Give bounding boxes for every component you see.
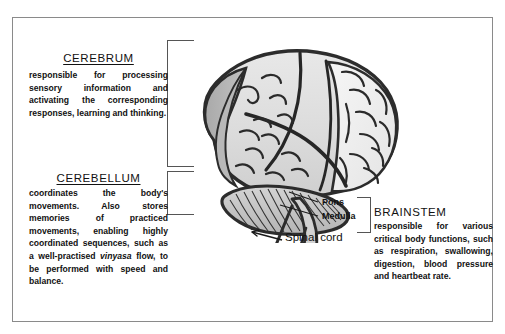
brainstem-section: BRAINSTEM responsible for various critic…	[374, 206, 493, 283]
brainstem-body: responsible for various critical body fu…	[374, 220, 493, 283]
cerebellum-section: CEREBELLUM coordinates the body's moveme…	[29, 172, 168, 288]
cerebrum-section: CEREBRUM responsible for processing sens…	[29, 52, 168, 119]
cerebrum-body: responsible for processing sensory infor…	[29, 69, 168, 119]
brainstem-heading: BRAINSTEM	[374, 206, 493, 218]
pons-label: Pons	[322, 197, 344, 207]
spinal-cord-label: Spinal cord	[285, 231, 343, 243]
medulla-label: Medulla	[322, 211, 356, 221]
cerebellum-body-italic: vinyasa	[100, 251, 132, 261]
cerebrum-bracket	[167, 40, 194, 167]
cerebellum-bracket	[167, 171, 194, 215]
cerebellum-heading: CEREBELLUM	[29, 172, 168, 184]
cerebellum-body: coordinates the body's movements. Also s…	[29, 187, 168, 288]
brainstem-bracket	[357, 197, 371, 233]
cerebrum-heading: CEREBRUM	[29, 52, 168, 64]
diagram-page: CEREBRUM responsible for processing sens…	[0, 0, 505, 334]
